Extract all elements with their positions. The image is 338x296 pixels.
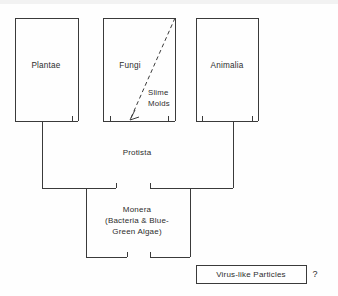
plantae-label: Plantae	[31, 61, 60, 70]
question-mark-label: ?	[312, 269, 317, 279]
monera-label-line1: Monera	[123, 205, 152, 214]
five-kingdom-diagram: Plantae Fungi Animalia Slime Molds Proti…	[0, 0, 338, 296]
slime-molds-label-line1: Slime	[148, 88, 169, 97]
diagram-page: Plantae Fungi Animalia Slime Molds Proti…	[0, 0, 338, 296]
animalia-label: Animalia	[211, 61, 244, 70]
monera-label-line3: Green Algae)	[112, 227, 162, 236]
fungi-label: Fungi	[119, 61, 140, 70]
protista-label: Protista	[123, 148, 152, 157]
monera-label-line2: (Bacteria & Blue-	[105, 216, 169, 225]
virus-like-particles-label: Virus-like Particles	[216, 270, 286, 279]
slime-molds-label-line2: Molds	[148, 99, 170, 108]
